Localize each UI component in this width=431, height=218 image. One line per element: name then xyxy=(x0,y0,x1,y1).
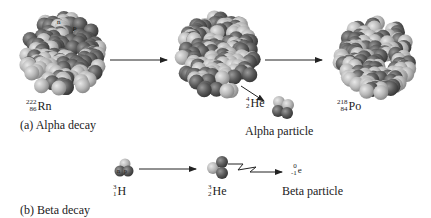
beta-emission-zigzag-arrow xyxy=(228,164,282,172)
beta-particle-label: Beta particle xyxy=(282,184,343,199)
helium3-nucleus xyxy=(207,156,228,179)
neutron-sphere xyxy=(373,85,388,100)
helium3-symbol: 32He xyxy=(208,184,227,198)
proton-sphere xyxy=(242,67,257,82)
tritium-symbol: 31H xyxy=(113,184,126,198)
alpha-decay-caption: (a) Alpha decay xyxy=(20,118,96,133)
proton-sphere xyxy=(197,82,212,97)
polonium-element: Po xyxy=(349,99,362,113)
neutron-sphere xyxy=(34,78,49,93)
neutron-sphere xyxy=(75,78,90,93)
helium4-atomic: 2 xyxy=(246,103,250,110)
electron-element: e xyxy=(298,165,302,175)
polonium-atomic: 84 xyxy=(337,106,348,113)
helium3-element: He xyxy=(213,184,227,198)
helium4-symbol: 42He xyxy=(246,96,265,110)
neutron-sphere xyxy=(359,84,374,99)
neutron-sphere xyxy=(220,84,235,99)
electron-charge: -1 xyxy=(291,170,297,177)
electron-symbol: 0-1e xyxy=(291,163,302,177)
tritium-atomic: 1 xyxy=(113,191,117,198)
radon-atomic: 86 xyxy=(26,106,37,113)
alpha-particle-cluster xyxy=(272,96,294,119)
tritium-element: H xyxy=(118,184,127,198)
polonium-symbol: 21884Po xyxy=(337,99,361,113)
proton-sphere xyxy=(216,156,228,168)
radon-element: Rn xyxy=(38,99,52,113)
polonium-nucleus xyxy=(333,16,417,100)
neutron-sphere xyxy=(24,65,39,80)
beta-decay-caption: (b) Beta decay xyxy=(20,203,90,218)
radon-nucleus xyxy=(19,11,106,96)
alpha-particle-label: Alpha particle xyxy=(245,124,313,139)
helium3-atomic: 2 xyxy=(208,191,212,198)
neutron-label-h: n xyxy=(117,168,120,174)
decaying-nucleus xyxy=(175,10,261,98)
neutron-label: n xyxy=(57,18,61,26)
radon-symbol: 22286Rn xyxy=(26,99,52,113)
helium4-element: He xyxy=(251,96,265,110)
proton-sphere xyxy=(281,107,293,119)
proton-label-h: p xyxy=(124,168,127,174)
proton-label: p xyxy=(73,24,77,32)
proton-sphere xyxy=(216,167,228,179)
neutron-sphere xyxy=(51,81,66,96)
